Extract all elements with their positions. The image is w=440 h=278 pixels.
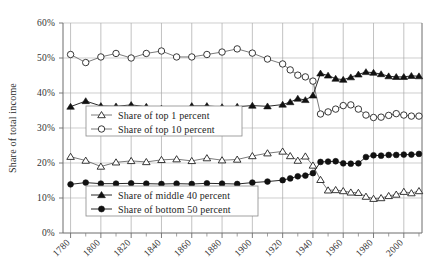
- data-point-0-29: [392, 191, 400, 197]
- x-tick-label-1780: 1780: [51, 237, 72, 258]
- x-tick-label-1820: 1820: [111, 237, 132, 258]
- data-point-2-14: [279, 101, 287, 107]
- data-point-0-4: [127, 157, 135, 163]
- y-tick-label-30: 30%: [37, 123, 55, 133]
- data-point-3-30: [401, 152, 407, 158]
- data-point-1-27: [378, 114, 384, 120]
- y-tick-label-0: 0%: [42, 228, 55, 238]
- data-point-1-5: [143, 50, 149, 56]
- data-point-1-0: [67, 51, 73, 57]
- series-line: [71, 72, 419, 110]
- data-point-1-2: [98, 54, 104, 60]
- data-point-2-16: [294, 95, 302, 101]
- data-point-0-15: [286, 153, 294, 159]
- data-point-1-23: [348, 102, 354, 108]
- x-tick-label-1900: 1900: [233, 237, 254, 258]
- data-point-2-21: [332, 75, 340, 81]
- data-point-0-14: [279, 148, 287, 154]
- x-tick-label-1920: 1920: [263, 237, 284, 258]
- y-tick-label-50: 50%: [37, 53, 55, 63]
- data-point-0-7: [173, 156, 181, 162]
- data-point-3-32: [416, 151, 422, 157]
- legend-label: Share of top 1 percent: [118, 110, 210, 121]
- y-tick-label-60: 60%: [37, 18, 55, 28]
- data-point-1-9: [204, 51, 210, 57]
- y-axis-title-text: Share of total income: [7, 83, 18, 173]
- chart-figure: 0%10%20%30%40%50%60% 1780180018201840186…: [0, 0, 440, 278]
- data-point-3-29: [393, 152, 399, 158]
- data-point-2-19: [317, 70, 325, 76]
- data-point-legend-0-1: [98, 126, 104, 132]
- y-tick-label-20: 20%: [37, 158, 55, 168]
- data-point-3-14: [280, 177, 286, 183]
- data-point-0-25: [362, 193, 370, 199]
- data-point-3-21: [333, 158, 339, 164]
- data-point-3-12: [249, 180, 255, 186]
- data-point-1-6: [158, 48, 164, 54]
- data-point-0-17: [302, 153, 310, 159]
- x-tick-label-1800: 1800: [81, 237, 102, 258]
- data-point-0-9: [203, 155, 211, 161]
- x-axis-tick-labels: 1780180018201840186018801900192019401960…: [51, 237, 405, 258]
- data-point-1-8: [189, 54, 195, 60]
- data-point-2-25: [362, 69, 370, 75]
- y-tick-label-40: 40%: [37, 88, 55, 98]
- income-share-line-chart: 0%10%20%30%40%50%60% 1780180018201840186…: [0, 0, 440, 278]
- data-point-3-24: [355, 160, 361, 166]
- data-point-3-16: [295, 173, 301, 179]
- data-point-1-22: [340, 102, 346, 108]
- x-tick-label-1980: 1980: [354, 237, 375, 258]
- x-tick-label-1840: 1840: [142, 237, 163, 258]
- data-point-1-31: [408, 113, 414, 119]
- data-point-1-32: [416, 113, 422, 119]
- data-point-3-19: [318, 159, 324, 165]
- data-point-3-28: [386, 152, 392, 158]
- data-point-1-30: [401, 112, 407, 118]
- data-point-3-31: [408, 152, 414, 158]
- data-point-3-18: [310, 170, 316, 176]
- data-point-2-24: [355, 71, 363, 77]
- x-tick-label-1880: 1880: [202, 237, 223, 258]
- data-point-1-11: [234, 46, 240, 52]
- data-point-0-19: [317, 176, 325, 182]
- x-tick-label-1960: 1960: [324, 237, 345, 258]
- data-point-1-16: [295, 72, 301, 78]
- data-point-1-21: [332, 106, 338, 112]
- data-point-3-4: [128, 180, 134, 186]
- data-point-1-28: [385, 112, 391, 118]
- data-point-3-23: [348, 161, 354, 167]
- data-point-1-19: [317, 111, 323, 117]
- y-axis-tick-labels: 0%10%20%30%40%50%60%: [37, 18, 55, 238]
- data-point-1-24: [355, 106, 361, 112]
- data-point-2-12: [249, 102, 257, 108]
- data-point-1-18: [310, 78, 316, 84]
- data-point-3-17: [302, 173, 308, 179]
- data-point-3-26: [371, 152, 377, 158]
- data-point-3-0: [68, 181, 74, 187]
- data-point-3-15: [287, 176, 293, 182]
- data-point-legend-1-1: [98, 206, 104, 212]
- data-point-1-15: [287, 67, 293, 73]
- data-point-1-29: [393, 110, 399, 116]
- data-point-1-1: [82, 59, 88, 65]
- data-point-1-10: [219, 49, 225, 55]
- y-tick-label-10: 10%: [37, 193, 55, 203]
- data-point-3-13: [265, 179, 271, 185]
- data-point-1-7: [173, 54, 179, 60]
- data-point-1-17: [302, 74, 308, 80]
- chart-legend: Share of top 1 percentShare of top 10 pe…: [86, 106, 258, 216]
- legend-group-1: Share of middle 40 percentShare of botto…: [86, 186, 258, 216]
- data-point-0-0: [67, 153, 75, 159]
- x-tick-label-2000: 2000: [384, 237, 405, 258]
- data-point-2-0: [67, 103, 75, 109]
- x-tick-label-1940: 1940: [293, 237, 314, 258]
- data-point-3-1: [83, 180, 89, 186]
- data-point-3-25: [363, 154, 369, 160]
- data-point-3-27: [378, 153, 384, 159]
- legend-group-0: Share of top 1 percentShare of top 10 pe…: [86, 106, 242, 136]
- x-tick-label-1860: 1860: [172, 237, 193, 258]
- data-point-1-3: [113, 50, 119, 56]
- data-point-2-1: [82, 98, 90, 104]
- data-point-1-20: [325, 109, 331, 115]
- data-point-1-14: [279, 61, 285, 67]
